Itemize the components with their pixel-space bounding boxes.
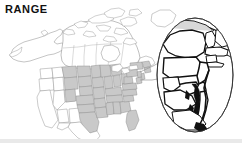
inset-state-pennsylvania: [163, 57, 200, 78]
mid-atlantic-inset: [0, 0, 242, 143]
inset-cape-cod: [227, 49, 236, 57]
range-map-figure: RANGE: [0, 0, 242, 143]
bottom-edge-band: [0, 139, 242, 143]
